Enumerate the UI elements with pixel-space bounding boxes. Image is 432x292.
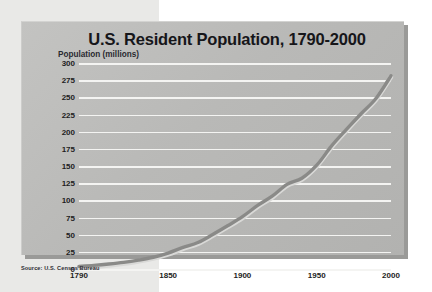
y-tick-label: 300 bbox=[62, 59, 75, 68]
plot-area bbox=[79, 63, 391, 269]
x-axis-tick-labels: 17901850190019502000 bbox=[79, 271, 391, 285]
x-tick-label: 1950 bbox=[308, 271, 326, 280]
y-tick-label: 75 bbox=[66, 213, 75, 222]
y-axis-tick-labels: 0255075100125150175200225250275300 bbox=[48, 63, 75, 269]
series-line bbox=[79, 76, 391, 267]
population-line-series bbox=[79, 63, 391, 269]
y-tick-label: 200 bbox=[62, 127, 75, 136]
y-tick-label: 275 bbox=[62, 76, 75, 85]
y-tick-label: 175 bbox=[62, 144, 75, 153]
chart-card: U.S. Resident Population, 1790-2000 Popu… bbox=[21, 21, 404, 255]
series-line-highlight bbox=[79, 77, 391, 268]
y-tick-label: 225 bbox=[62, 110, 75, 119]
y-tick-label: 250 bbox=[62, 93, 75, 102]
y-tick-label: 100 bbox=[62, 196, 75, 205]
x-tick-label: 1850 bbox=[159, 271, 177, 280]
y-tick-label: 50 bbox=[66, 230, 75, 239]
source-note: Source: U.S. Census Bureau bbox=[21, 265, 99, 271]
y-tick-label: 150 bbox=[62, 162, 75, 171]
x-tick-label: 2000 bbox=[382, 271, 400, 280]
x-tick-label: 1900 bbox=[234, 271, 252, 280]
y-tick-label: 25 bbox=[66, 247, 75, 256]
chart-title: U.S. Resident Population, 1790-2000 bbox=[22, 30, 404, 49]
x-tick-label: 1790 bbox=[70, 271, 88, 280]
y-tick-label: 125 bbox=[62, 179, 75, 188]
